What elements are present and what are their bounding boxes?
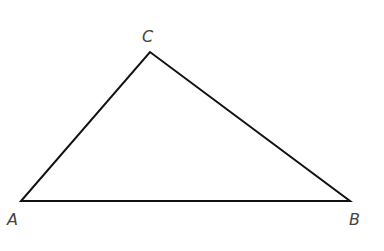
triangle-diagram: A B C (0, 0, 384, 251)
vertex-label-b: B (349, 210, 360, 229)
vertex-label-c: C (142, 27, 154, 46)
triangle-abc (21, 52, 350, 201)
vertex-label-a: A (6, 210, 18, 229)
